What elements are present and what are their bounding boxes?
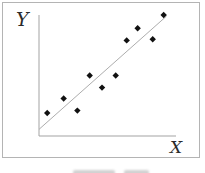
data-point-marker xyxy=(150,36,156,42)
trend-line xyxy=(39,16,166,129)
figure-panel: Y X xyxy=(0,0,205,173)
data-point-marker xyxy=(123,37,129,43)
data-point-marker xyxy=(44,110,50,116)
data-point-marker xyxy=(74,107,80,113)
data-point-marker xyxy=(60,95,66,101)
data-point-marker xyxy=(86,72,92,78)
data-point-marker xyxy=(99,84,105,90)
data-point-marker xyxy=(134,25,140,31)
x-axis-label: X xyxy=(170,139,182,156)
cropped-caption-fragment xyxy=(124,170,149,173)
data-point-marker xyxy=(113,72,119,78)
cropped-caption-fragment xyxy=(73,170,115,173)
y-axis-label: Y xyxy=(16,10,29,29)
